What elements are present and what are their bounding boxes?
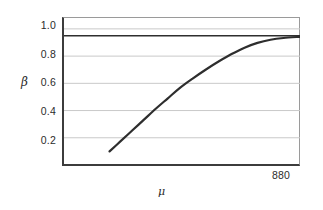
plot-canvas [64, 18, 300, 165]
y-tick-label-0.4: 0.4 [28, 106, 56, 117]
y-tick-label-1.0: 1.0 [28, 20, 56, 31]
plot-area [62, 17, 300, 166]
power-curve-path [110, 37, 300, 152]
y-tick-label-0.8: 0.8 [28, 49, 56, 60]
x-axis-end-label: 880 [272, 170, 290, 181]
y-tick-label-0.2: 0.2 [28, 135, 56, 146]
x-axis-label: μ [0, 186, 323, 197]
y-axis-label: β [21, 76, 28, 88]
y-tick-label-0.6: 0.6 [28, 77, 56, 88]
gridlines [64, 29, 300, 138]
y-axis-tick-labels: 1.0 0.8 0.6 0.4 0.2 [26, 0, 56, 210]
power-curve-figure: 1.0 0.8 0.6 0.4 0.2 β 880 μ [0, 0, 323, 210]
